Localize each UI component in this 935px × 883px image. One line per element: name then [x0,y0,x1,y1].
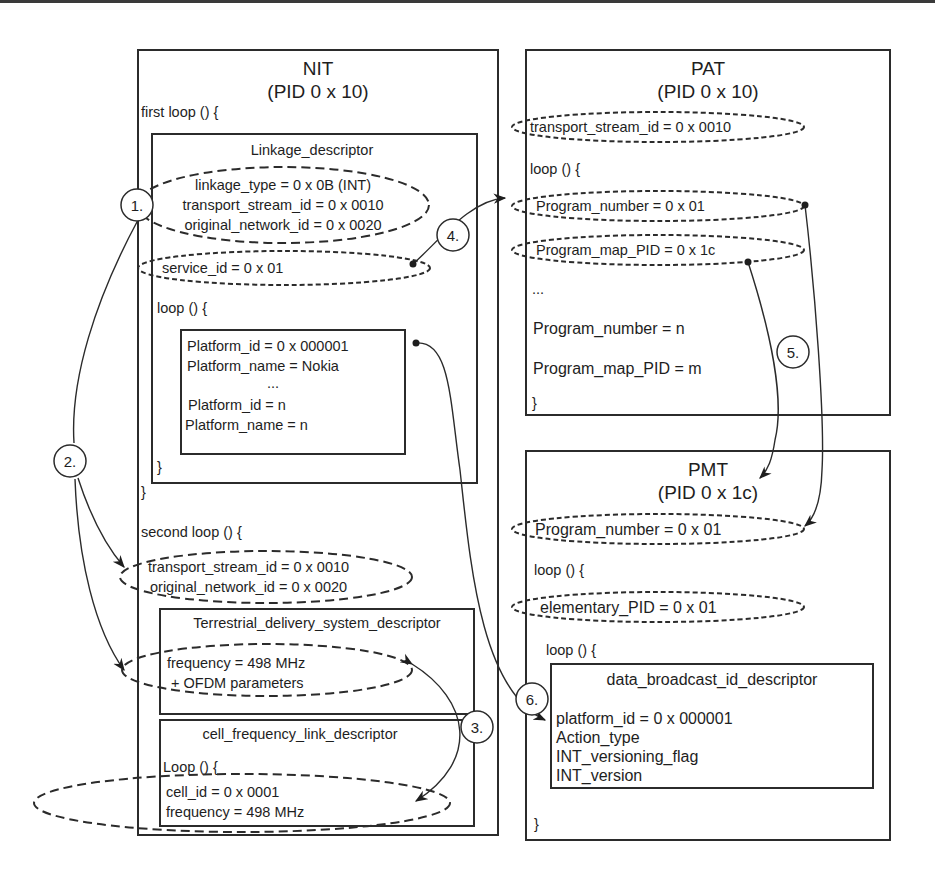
pat-program-number-n: Program_number = n [533,320,685,338]
step-1-marker: 1. [121,189,153,221]
action-type-field: Action_type [556,729,640,747]
platform-name-field: Platform_name = Nokia [187,358,340,374]
platform-id-field-pmt: platform_id = 0 x 000001 [556,710,733,728]
cell-fields-highlight [34,774,450,832]
connector-2-to-frequency [75,479,124,670]
cell-id-field: cell_id = 0 x 0001 [166,784,279,800]
terrestrial-frequency-field: frequency = 498 MHz [167,655,305,671]
nit-table: NIT (PID 0 x 10) first loop () { Linkage… [34,50,498,835]
linkage-descriptor-title: Linkage_descriptor [251,142,374,158]
int-version-field: INT_version [556,767,642,785]
linkage-loop-label: loop () { [157,300,207,316]
pat-program-map-pid: Program_map_PID = 0 x 1c [536,242,715,258]
connector-1-to-2 [74,220,138,443]
platform-id-n-field: Platform_id = n [188,397,286,413]
cell-frequency-field: frequency = 498 MHz [166,804,304,820]
terrestrial-descriptor-title: Terrestrial_delivery_system_descriptor [193,615,441,631]
pat-table: PAT (PID 0 x 10) transport_stream_id = 0… [512,50,890,415]
step-3-marker: 3. [461,711,493,743]
pat-program-map-pid-m: Program_map_PID = m [533,360,702,378]
data-broadcast-descriptor-title: data_broadcast_id_descriptor [607,671,818,689]
pat-loop-label: loop () { [530,161,580,177]
platform-name-n-field: Platform_name = n [185,417,308,433]
terrestrial-delivery-descriptor: Terrestrial_delivery_system_descriptor f… [122,609,474,714]
pmt-pid: (PID 0 x 1c) [658,482,758,503]
pmt-table: PMT (PID 0 x 1c) Program_number = 0 x 01… [512,451,890,840]
pmt-program-number: Program_number = 0 x 01 [535,521,721,539]
nit-title: NIT [303,58,334,79]
step-6-label: 6. [526,691,539,708]
linkage-loop-close: } [157,459,162,475]
pat-pid: (PID 0 x 10) [657,81,758,102]
platform-ellipsis: ... [267,375,279,391]
pmt-close: } [534,816,539,832]
step-4-marker: 4. [437,219,469,251]
linkage-original-network-id-field: original_network_id = 0 x 0020 [184,217,381,233]
cell-frequency-link-descriptor: cell_frequency_link_descriptor Loop () {… [34,720,474,832]
pmt-loop-label: loop () { [534,562,584,578]
linkage-type-field: linkage_type = 0 x 0B (INT) [195,177,371,193]
ofdm-parameters-field: + OFDM parameters [171,675,304,691]
second-loop-original-network-id: original_network_id = 0 x 0020 [150,579,347,595]
pat-transport-stream-id: transport_stream_id = 0 x 0010 [530,119,731,135]
platform-id-dot [413,340,420,347]
connector-2-to-second-loop [78,478,124,567]
first-loop-close: } [141,484,146,500]
step-5-label: 5. [787,344,800,361]
data-broadcast-id-descriptor: data_broadcast_id_descriptor platform_id… [551,664,873,788]
program-map-pid-dot [745,259,752,266]
service-id-dot [410,261,417,268]
step-1-label: 1. [131,197,144,214]
signalling-diagram: NIT (PID 0 x 10) first loop () { Linkage… [0,0,935,883]
linkage-transport-stream-id-field: transport_stream_id = 0 x 0010 [182,197,383,213]
pat-ellipsis: ... [532,281,544,297]
step-2-marker: 2. [54,445,86,477]
step-6-marker: 6. [516,683,548,715]
nit-pid: (PID 0 x 10) [267,81,368,102]
program-number-dot [802,202,809,209]
linkage-descriptor: Linkage_descriptor linkage_type = 0 x 0B… [137,134,477,483]
step-3-label: 3. [471,719,484,736]
platform-id-field: Platform_id = 0 x 000001 [187,338,349,354]
step-4-label: 4. [447,227,460,244]
connector-5-pmt-pid [748,262,778,478]
second-loop-transport-stream-id: transport_stream_id = 0 x 0010 [148,559,349,575]
nit-first-loop-label: first loop () { [141,104,219,120]
connector-3-frequency-link [412,664,460,801]
pat-close: } [532,395,537,411]
pat-program-number: Program_number = 0 x 01 [536,198,705,214]
cell-frequency-descriptor-title: cell_frequency_link_descriptor [202,726,397,742]
step-5-marker: 5. [777,336,809,368]
service-id-field: service_id = 0 x 01 [162,260,283,276]
pmt-title: PMT [688,459,729,480]
pmt-inner-loop-label: loop () { [546,642,596,658]
pat-title: PAT [691,58,726,79]
int-versioning-flag-field: INT_versioning_flag [556,748,698,766]
connector-program-number [805,205,823,526]
elementary-pid: elementary_PID = 0 x 01 [540,599,717,617]
second-loop-label: second loop () { [141,524,242,540]
cell-frequency-loop-label: Loop () { [163,759,218,775]
step-2-label: 2. [64,453,77,470]
